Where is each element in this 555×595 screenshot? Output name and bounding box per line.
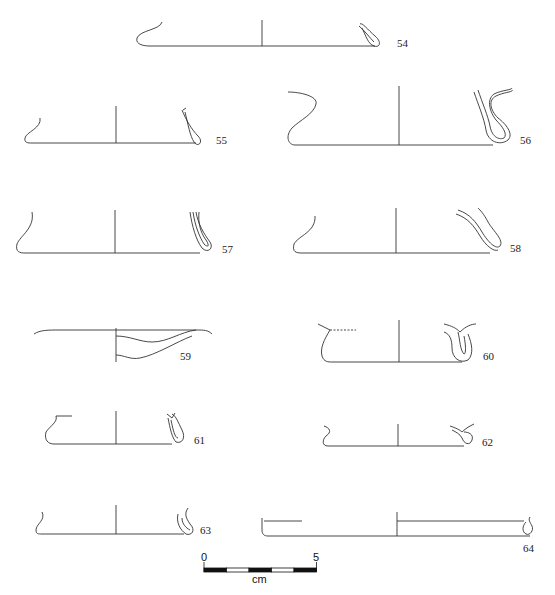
profile-label-57: 57 [222,243,233,255]
profile-62 [323,424,474,446]
profile-label-55: 55 [216,134,227,146]
scale-end-label: 5 [313,551,319,563]
profile-55 [25,106,201,144]
profile-label-64: 64 [523,542,534,554]
scale-bar [204,562,317,572]
profile-label-56: 56 [520,134,531,146]
profile-58 [293,208,500,253]
profile-drawings [0,0,555,595]
profile-56 [288,86,512,145]
profile-label-59: 59 [180,350,191,362]
profile-label-60: 60 [483,350,494,362]
profile-64 [262,512,533,536]
profile-label-62: 62 [482,436,493,448]
profile-label-54: 54 [397,37,408,49]
scale-start-label: 0 [201,551,207,563]
profile-57 [17,210,212,253]
profile-54 [137,20,380,46]
scale-unit-label: cm [252,573,267,585]
profile-label-63: 63 [200,524,211,536]
profile-60 [318,320,476,362]
profile-label-61: 61 [194,434,205,446]
profile-label-58: 58 [510,242,521,254]
profile-61 [45,411,183,444]
profile-63 [36,505,193,534]
